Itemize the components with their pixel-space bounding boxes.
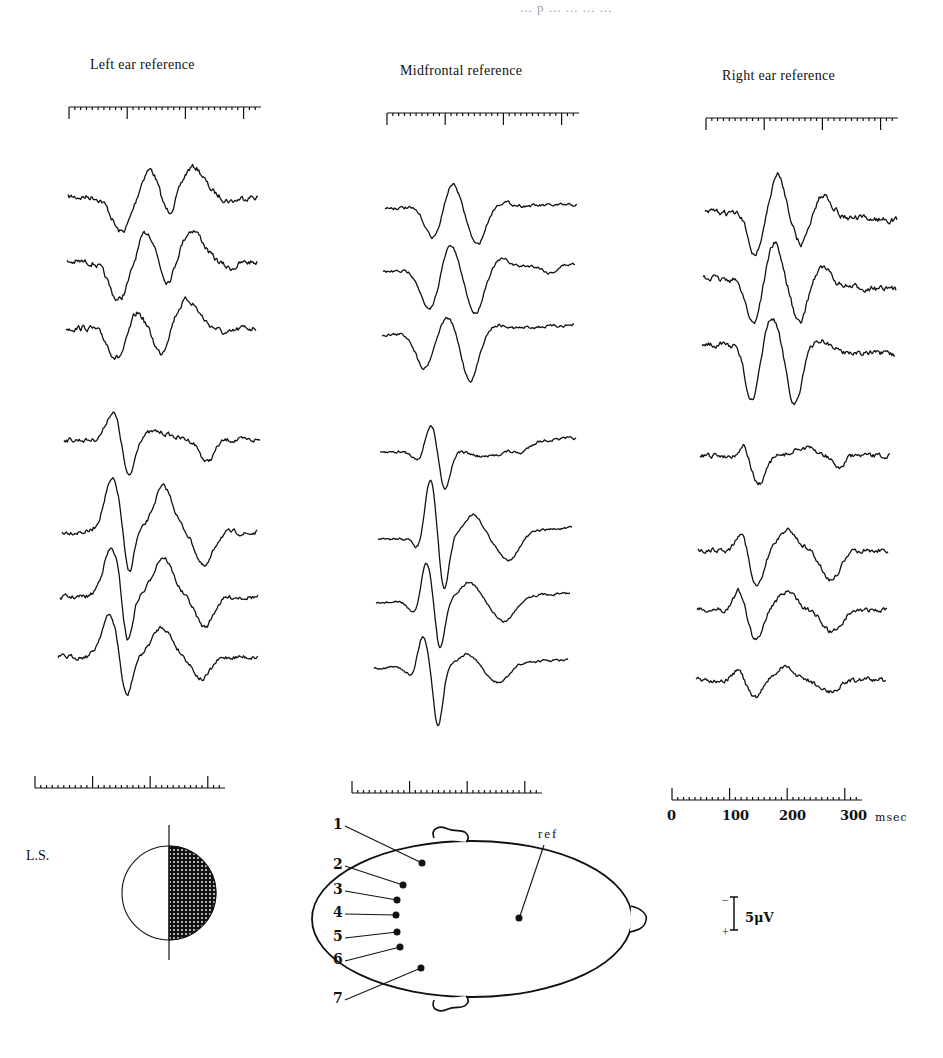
reference-electrode-icon: [516, 915, 523, 922]
trace-right-4: [700, 445, 890, 485]
electrode-7-icon: [418, 965, 425, 972]
time-tick-200: 200: [779, 808, 806, 823]
electrode-label-6: 6: [333, 951, 343, 967]
reference-label: ref: [538, 826, 558, 842]
time-tick-0: 0: [667, 808, 676, 823]
ear-top-icon: [433, 827, 468, 842]
electrode-leader-1: [345, 826, 422, 863]
trace-left-5: [62, 478, 257, 572]
voltage-scale-bar: [730, 897, 738, 930]
trace-right-6: [697, 588, 887, 639]
electrode-leader-4: [345, 914, 396, 915]
trace-left-2: [67, 231, 257, 301]
trace-left-4: [64, 412, 260, 475]
electrode-leader-2: [345, 866, 403, 885]
electrode-label-4: 4: [333, 904, 343, 920]
electrode-label-7: 7: [333, 990, 343, 1006]
electrode-label-5: 5: [333, 928, 343, 944]
electrode-3-icon: [394, 897, 401, 904]
time-tick-100: 100: [722, 808, 749, 823]
trace-right-2: [703, 242, 896, 324]
voltage-minus: −: [722, 893, 729, 908]
trace-right-7: [696, 666, 886, 698]
voltage-plus: +: [722, 925, 729, 940]
ear-bottom-icon: [433, 996, 468, 1011]
trace-mid-1: [385, 183, 577, 244]
trace-mid-2: [383, 246, 575, 314]
time-ruler-top-left: [69, 107, 261, 119]
electrode-label-2: 2: [333, 856, 343, 872]
trace-left-7: [58, 614, 258, 695]
trace-left-1: [68, 164, 258, 232]
trace-right-5: [698, 528, 888, 586]
trace-mid-5: [378, 480, 572, 588]
time-ruler-bottom-midfrontal: [352, 781, 542, 793]
nose-icon: [630, 906, 646, 932]
time-ruler-bottom-left: [35, 776, 225, 788]
head-outline: [312, 841, 632, 997]
trace-mid-7: [374, 637, 568, 726]
electrode-2-icon: [400, 882, 407, 889]
trace-left-3: [66, 297, 256, 360]
trace-mid-3: [382, 317, 574, 382]
time-ruler-top-right: [706, 118, 898, 130]
electrode-1-icon: [419, 860, 426, 867]
trace-mid-4: [380, 426, 576, 489]
trace-right-3: [702, 319, 895, 405]
voltage-label: 5μV: [745, 910, 774, 925]
electrode-label-3: 3: [333, 881, 343, 897]
electrode-6-icon: [397, 944, 404, 951]
trace-left-6: [60, 548, 258, 640]
electrode-5-icon: [394, 929, 401, 936]
reference-leader: [520, 845, 544, 916]
time-ruler-top-midfrontal: [387, 113, 579, 125]
electrode-leader-6: [345, 947, 400, 961]
electrode-label-1: 1: [333, 816, 343, 832]
time-unit: msec: [875, 811, 908, 824]
electrode-leader-3: [345, 891, 397, 900]
time-tick-300: 300: [840, 808, 867, 823]
trace-mid-6: [376, 563, 570, 647]
figure-canvas: [0, 0, 943, 1058]
stimulated-hemifield: [169, 846, 216, 940]
trace-right-1: [705, 173, 897, 256]
electrode-leader-5: [345, 932, 397, 938]
electrode-4-icon: [393, 912, 400, 919]
time-ruler-bottom-right: [672, 788, 862, 800]
stimulus-label: L.S.: [26, 848, 49, 864]
